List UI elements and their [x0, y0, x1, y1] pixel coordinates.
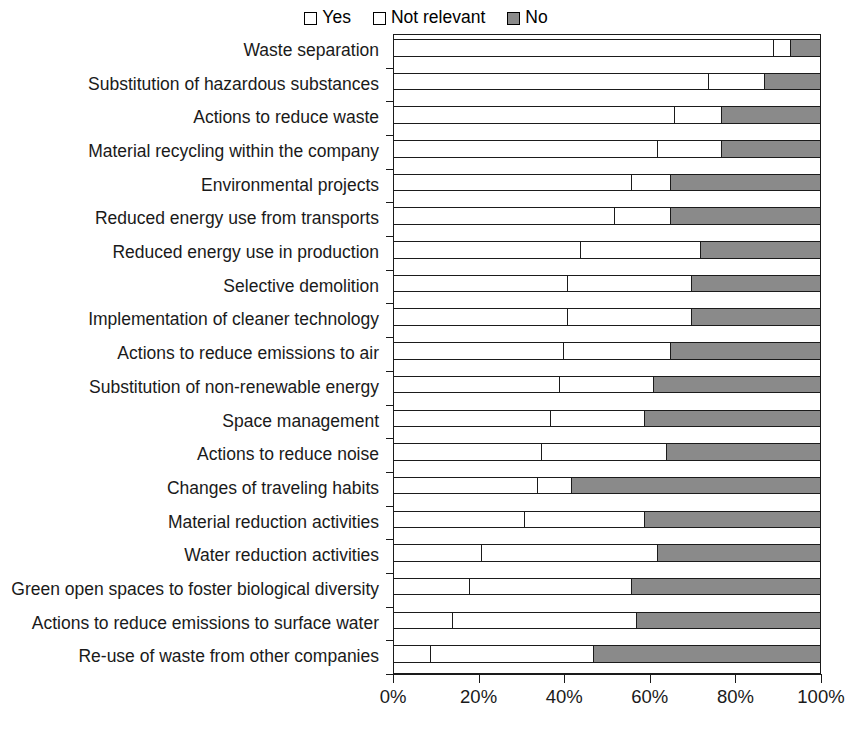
- stacked-bar[interactable]: [393, 275, 821, 293]
- bar-segment-no[interactable]: [644, 410, 821, 428]
- bar-segment-no[interactable]: [700, 241, 821, 259]
- bar-segment-yes[interactable]: [393, 39, 774, 57]
- bar-segment-yes[interactable]: [393, 73, 710, 91]
- bar-segment-not-relevant[interactable]: [567, 275, 693, 293]
- bar-segment-yes[interactable]: [393, 376, 560, 394]
- stacked-bar[interactable]: [393, 207, 821, 225]
- x-axis-tick: [479, 674, 480, 683]
- category-axis-labels: Waste separationSubstitution of hazardou…: [0, 34, 387, 674]
- bar-segment-not-relevant[interactable]: [524, 511, 645, 529]
- bar-segment-yes[interactable]: [393, 511, 526, 529]
- legend-swatch-yes-icon: [304, 12, 317, 25]
- bar-segment-not-relevant[interactable]: [550, 410, 646, 428]
- bar-segment-no[interactable]: [721, 140, 821, 158]
- bar-segment-yes[interactable]: [393, 477, 539, 495]
- bar-segment-not-relevant[interactable]: [430, 645, 594, 663]
- category-tick: [386, 573, 393, 574]
- category-label: Space management: [222, 405, 379, 439]
- bar-segment-yes[interactable]: [393, 443, 543, 461]
- bar-segment-yes[interactable]: [393, 645, 432, 663]
- bar-segment-not-relevant[interactable]: [773, 39, 792, 57]
- stacked-bar[interactable]: [393, 645, 821, 663]
- bar-segment-no[interactable]: [691, 308, 821, 326]
- bar-segment-no[interactable]: [764, 73, 821, 91]
- bar-segment-not-relevant[interactable]: [541, 443, 667, 461]
- bar-segment-not-relevant[interactable]: [567, 308, 693, 326]
- bar-segment-yes[interactable]: [393, 106, 675, 124]
- legend-item-no[interactable]: No: [507, 9, 547, 27]
- bar-row: [393, 337, 821, 371]
- stacked-bar[interactable]: [393, 342, 821, 360]
- bar-segment-yes[interactable]: [393, 544, 483, 562]
- bar-segment-no[interactable]: [670, 342, 821, 360]
- bar-segment-not-relevant[interactable]: [614, 207, 671, 225]
- bar-segment-no[interactable]: [593, 645, 821, 663]
- category-label: Reduced energy use in production: [112, 236, 379, 270]
- bar-segment-no[interactable]: [657, 544, 821, 562]
- category-tick: [386, 337, 393, 338]
- legend-item-yes[interactable]: Yes: [304, 9, 351, 27]
- x-axis-tick: [650, 674, 651, 683]
- category-tick: [386, 674, 393, 675]
- bar-segment-not-relevant[interactable]: [580, 241, 701, 259]
- bar-row: [393, 640, 821, 674]
- bar-segment-yes[interactable]: [393, 174, 633, 192]
- bar-segment-yes[interactable]: [393, 308, 568, 326]
- bar-segment-no[interactable]: [691, 275, 821, 293]
- category-label: Water reduction activities: [184, 539, 379, 573]
- stacked-bar[interactable]: [393, 106, 821, 124]
- stacked-bar[interactable]: [393, 140, 821, 158]
- bar-segment-not-relevant[interactable]: [631, 174, 671, 192]
- bar-segment-no[interactable]: [721, 106, 821, 124]
- bar-segment-yes[interactable]: [393, 241, 581, 259]
- stacked-bar[interactable]: [393, 73, 821, 91]
- category-label: Actions to reduce emissions to surface w…: [32, 607, 379, 641]
- bar-segment-yes[interactable]: [393, 207, 616, 225]
- stacked-bar[interactable]: [393, 241, 821, 259]
- stacked-bar[interactable]: [393, 443, 821, 461]
- bar-segment-not-relevant[interactable]: [563, 342, 671, 360]
- x-axis-tick-label: 100%: [797, 686, 844, 707]
- bar-segment-yes[interactable]: [393, 342, 564, 360]
- stacked-bar[interactable]: [393, 578, 821, 596]
- legend-label-yes: Yes: [322, 9, 351, 27]
- bar-segment-yes[interactable]: [393, 140, 658, 158]
- bar-segment-not-relevant[interactable]: [708, 73, 765, 91]
- stacked-bar[interactable]: [393, 544, 821, 562]
- bar-segment-no[interactable]: [653, 376, 821, 394]
- bar-segment-no[interactable]: [631, 578, 821, 596]
- bar-segment-no[interactable]: [644, 511, 821, 529]
- bar-segment-no[interactable]: [790, 39, 821, 57]
- bar-segment-not-relevant[interactable]: [481, 544, 658, 562]
- category-tick: [386, 607, 393, 608]
- bar-segment-yes[interactable]: [393, 612, 453, 630]
- bar-segment-yes[interactable]: [393, 275, 568, 293]
- stacked-bar[interactable]: [393, 174, 821, 192]
- bar-segment-no[interactable]: [670, 207, 821, 225]
- bar-segment-not-relevant[interactable]: [674, 106, 722, 124]
- bar-segment-not-relevant[interactable]: [559, 376, 655, 394]
- stacked-bar[interactable]: [393, 511, 821, 529]
- bar-segment-no[interactable]: [670, 174, 821, 192]
- bar-segment-not-relevant[interactable]: [537, 477, 573, 495]
- stacked-bar[interactable]: [393, 410, 821, 428]
- stacked-bar[interactable]: [393, 308, 821, 326]
- bar-segment-not-relevant[interactable]: [469, 578, 633, 596]
- category-tick: [386, 371, 393, 372]
- bar-segment-no[interactable]: [666, 443, 821, 461]
- category-tick: [386, 135, 393, 136]
- bar-row: [393, 506, 821, 540]
- bar-segment-no[interactable]: [571, 477, 821, 495]
- bar-row: [393, 371, 821, 405]
- legend-item-not-relevant[interactable]: Not relevant: [373, 9, 485, 27]
- stacked-bar[interactable]: [393, 477, 821, 495]
- bar-segment-yes[interactable]: [393, 578, 470, 596]
- stacked-bar[interactable]: [393, 612, 821, 630]
- bar-segment-no[interactable]: [636, 612, 821, 630]
- bar-segment-yes[interactable]: [393, 410, 551, 428]
- category-label: Substitution of hazardous substances: [88, 68, 379, 102]
- bar-segment-not-relevant[interactable]: [452, 612, 637, 630]
- stacked-bar[interactable]: [393, 39, 821, 57]
- stacked-bar[interactable]: [393, 376, 821, 394]
- bar-segment-not-relevant[interactable]: [657, 140, 723, 158]
